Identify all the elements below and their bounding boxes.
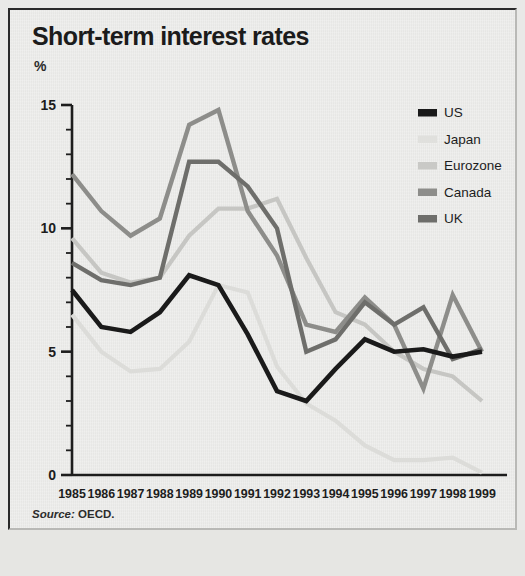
page-footer-margin: [0, 530, 525, 576]
x-axis-tick-label: 1996: [380, 487, 408, 501]
x-axis-tick-label: 1991: [234, 487, 262, 501]
plot-area: 051015 198519861987198819891990199119921…: [10, 10, 515, 528]
x-axis-tick-label: 1999: [468, 487, 496, 501]
legend-label-japan: Japan: [444, 132, 481, 147]
x-axis: 1985198619871988198919901991199219931994…: [58, 475, 507, 501]
x-axis-tick-label: 1997: [410, 487, 438, 501]
x-axis-tick-label: 1988: [146, 487, 174, 501]
legend-swatch-canada: [418, 189, 437, 197]
series-line-canada: [72, 110, 482, 389]
legend-label-uk: UK: [444, 211, 463, 226]
chart-legend: USJapanEurozoneCanadaUK: [418, 105, 502, 226]
x-axis-tick-label: 1990: [205, 487, 233, 501]
source-value: OECD.: [78, 508, 114, 520]
legend-label-canada: Canada: [444, 185, 492, 200]
x-axis-tick-label: 1998: [439, 487, 467, 501]
x-axis-tick-label: 1987: [117, 487, 145, 501]
chart-figure: Short-term interest rates % 051015 19851…: [8, 8, 517, 530]
x-axis-tick-label: 1989: [175, 487, 203, 501]
x-axis-tick-label: 1992: [263, 487, 291, 501]
source-label: Source:: [32, 508, 75, 520]
y-axis-tick-label: 10: [40, 220, 56, 236]
x-axis-tick-label: 1994: [322, 487, 350, 501]
x-axis-tick-label: 1993: [292, 487, 320, 501]
source-note: Source: OECD.: [32, 508, 114, 520]
y-axis: 051015: [40, 97, 72, 483]
line-chart-svg: 051015 198519861987198819891990199119921…: [10, 10, 517, 530]
y-axis-tick-label: 0: [48, 467, 56, 483]
x-axis-tick-label: 1995: [351, 487, 379, 501]
legend-swatch-japan: [418, 136, 437, 144]
legend-swatch-eurozone: [418, 162, 437, 170]
x-axis-tick-label: 1985: [58, 487, 86, 501]
y-axis-tick-label: 5: [48, 344, 56, 360]
legend-label-eurozone: Eurozone: [444, 158, 502, 173]
legend-swatch-uk: [418, 215, 437, 223]
legend-swatch-us: [418, 109, 437, 117]
y-axis-tick-label: 15: [40, 97, 56, 113]
legend-label-us: US: [444, 105, 463, 120]
x-axis-tick-label: 1986: [87, 487, 115, 501]
